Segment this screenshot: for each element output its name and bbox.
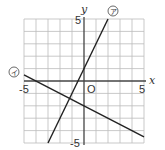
svg-text:イ: イ <box>11 69 18 77</box>
line-i-label: イ <box>9 67 19 77</box>
line-a-label: ア <box>108 6 118 16</box>
y-axis-label: y <box>80 3 88 16</box>
y-max-label: 5 <box>75 14 81 26</box>
y-min-label: -5 <box>70 137 80 149</box>
x-axis-label: x <box>149 74 156 87</box>
x-max-label: 5 <box>139 83 145 95</box>
svg-text:ア: ア <box>110 8 117 16</box>
x-min-label: -5 <box>19 83 29 95</box>
coordinate-graph: y x O -5 5 5 -5 ア イ <box>0 0 165 150</box>
origin-label: O <box>87 83 96 95</box>
